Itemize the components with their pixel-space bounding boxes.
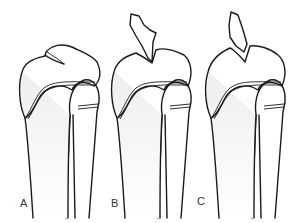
panel-a bbox=[20, 45, 100, 218]
panel-label-c: C bbox=[197, 195, 205, 207]
panel-label-a: A bbox=[20, 197, 27, 209]
panel-label-b: B bbox=[111, 197, 118, 209]
panel-c bbox=[206, 12, 286, 218]
panel-b bbox=[112, 14, 192, 218]
fracture-illustration bbox=[0, 0, 298, 223]
